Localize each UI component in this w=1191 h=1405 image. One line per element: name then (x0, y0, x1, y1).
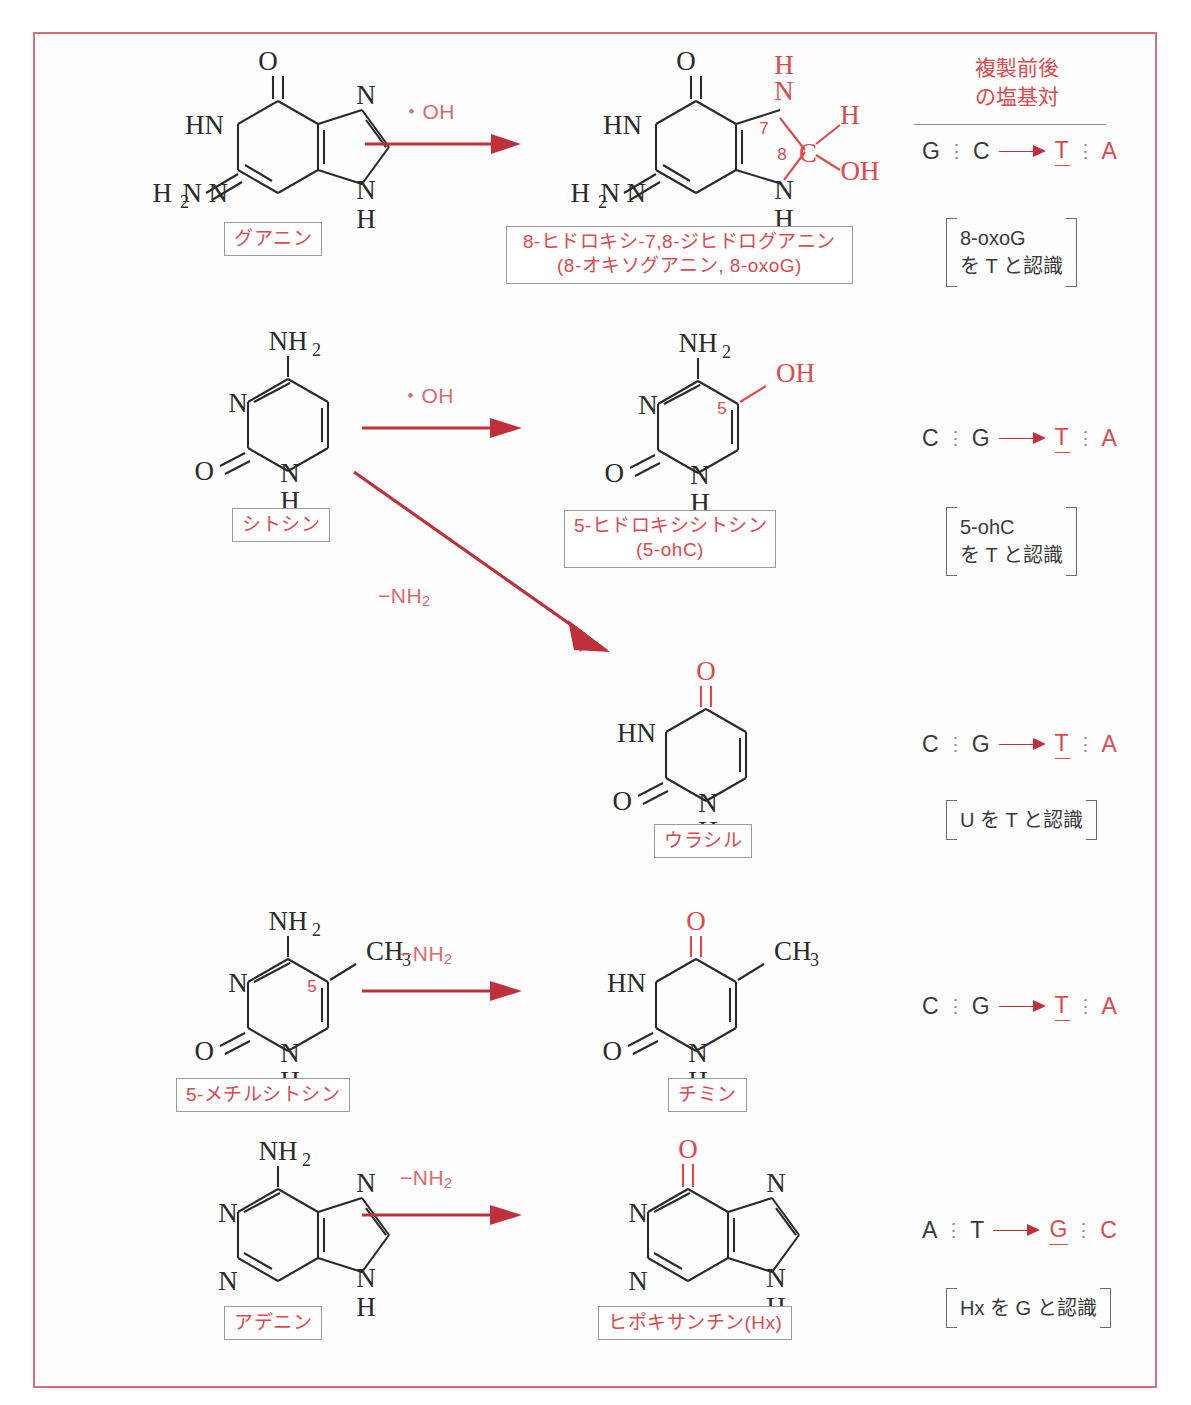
pair-2-arrow-icon (999, 432, 1047, 446)
svg-text:CH: CH (366, 936, 404, 966)
note-row-2: 5-ohC を T と認識 (946, 507, 1077, 576)
pair-3-from-a: C (922, 731, 940, 758)
structure-hypoxanthine: O N N N N H (560, 1140, 850, 1320)
pair-5-from-b: T (970, 1217, 985, 1244)
note-row-3: U を T と認識 (946, 800, 1097, 840)
pair-4-to-b: A (1102, 993, 1118, 1020)
svg-text:2: 2 (312, 920, 321, 940)
reaction-arrow-4 (362, 979, 527, 1003)
svg-text:N: N (228, 968, 248, 998)
svg-text:H: H (356, 1292, 376, 1322)
structure-uracil: O O HN N H (608, 660, 848, 840)
structure-5-hydroxycytosine: O NH 2 OH 5 N N H (600, 332, 850, 507)
svg-text:O: O (696, 656, 716, 686)
svg-text:C: C (799, 138, 817, 168)
pair-1-colon-right: ⋮ (1070, 140, 1102, 163)
pair-1-to-b: A (1102, 138, 1118, 165)
svg-text:5: 5 (717, 399, 726, 418)
reaction-arrow-1 (365, 132, 525, 156)
note-row-1-line2: を T と認識 (960, 252, 1063, 280)
right-column-header-line2: の塩基対 (975, 85, 1059, 108)
svg-text:OH: OH (776, 358, 815, 388)
right-column-divider (914, 124, 1106, 125)
svg-text:HN: HN (185, 110, 224, 140)
svg-text:NH: NH (679, 328, 718, 358)
caption-5ohc-line2: (5-ohC) (636, 539, 704, 560)
svg-text:N: N (688, 1038, 708, 1068)
svg-text:3: 3 (810, 950, 819, 970)
caption-hypoxanthine: ヒポキサンチン(Hx) (598, 1306, 792, 1340)
svg-text:N: N (218, 1198, 238, 1228)
caption-uracil: ウラシル (654, 824, 752, 858)
svg-text:N: N (628, 1198, 648, 1228)
svg-text:NH: NH (269, 326, 308, 356)
svg-text:N: N (601, 178, 621, 208)
pair-5-to-b: C (1100, 1217, 1118, 1244)
pair-4-colon-left: ⋮ (940, 995, 972, 1018)
svg-text:O: O (195, 1036, 215, 1066)
note-row-3-line1: U を T と認識 (960, 806, 1083, 834)
svg-text:NH: NH (269, 906, 308, 936)
svg-text:N: N (698, 788, 718, 818)
svg-text:H: H (571, 178, 591, 208)
pair-5-colon-right: ⋮ (1068, 1219, 1100, 1242)
svg-text:OH: OH (841, 156, 880, 186)
pair-3-colon-left: ⋮ (940, 733, 972, 756)
svg-text:O: O (195, 456, 215, 486)
note-row-1-line1: 8-oxoG (960, 224, 1063, 252)
pair-2-to-a: T (1055, 424, 1070, 453)
svg-text:8: 8 (777, 145, 786, 164)
arrow-label-deamination-3: −NH2 (400, 1166, 453, 1191)
svg-text:N: N (280, 1038, 300, 1068)
arrow-label-hydroxyl-radical-2: ・OH (400, 379, 454, 409)
svg-text:N: N (228, 388, 248, 418)
pair-2-colon-left: ⋮ (940, 427, 972, 450)
svg-text:N: N (766, 1263, 786, 1293)
pair-2-from-b: G (972, 425, 991, 452)
svg-text:O: O (603, 1036, 623, 1066)
pair-1-colon-left: ⋮ (941, 140, 973, 163)
svg-text:N: N (356, 1168, 376, 1198)
pair-5-colon-left: ⋮ (938, 1219, 970, 1242)
arrow-label-deamination-1: −NH2 (378, 584, 431, 609)
right-column-header-line1: 複製前後 (975, 56, 1059, 79)
svg-text:HN: HN (607, 968, 646, 998)
note-row-5-line1: Hx を G と認識 (960, 1294, 1097, 1322)
svg-text:7: 7 (759, 119, 768, 138)
pair-3-arrow-icon (999, 738, 1047, 752)
caption-adenine: アデニン (224, 1306, 322, 1340)
structure-thymine: O O CH 3 HN N H (598, 910, 848, 1090)
caption-8-oxoguanine-line2: (8-オキソグアニン, 8-oxoG) (557, 255, 802, 276)
svg-text:N: N (690, 460, 710, 490)
caption-5-methylcytosine: 5-メチルシトシン (176, 1078, 350, 1112)
base-pair-row-3: C ⋮ G T ⋮ A (922, 730, 1118, 759)
note-row-2-line2: を T と認識 (960, 541, 1063, 569)
pair-1-from-a: G (922, 138, 941, 165)
svg-text:N: N (774, 175, 794, 205)
right-column-header: 複製前後 の塩基対 (922, 53, 1112, 112)
structure-8-oxoguanine: O N H 7 8 C H OH N H HN N H 2 N (568, 52, 868, 232)
svg-text:N: N (628, 1266, 648, 1296)
svg-text:H: H (153, 178, 173, 208)
svg-text:HN: HN (603, 110, 642, 140)
caption-8-oxoguanine-line1: 8-ヒドロキシ-7,8-ジヒドログアニン (523, 231, 836, 252)
pair-1-from-b: C (973, 138, 991, 165)
svg-text:N: N (356, 1263, 376, 1293)
base-pair-row-1: G ⋮ C T ⋮ A (922, 137, 1118, 166)
pair-2-to-b: A (1102, 425, 1118, 452)
caption-5-hydroxycytosine: 5-ヒドロキシシトシン (5-ohC) (564, 510, 776, 568)
caption-5ohc-line1: 5-ヒドロキシシトシン (574, 515, 767, 536)
svg-text:N: N (183, 178, 203, 208)
caption-8-oxoguanine: 8-ヒドロキシ-7,8-ジヒドログアニン (8-オキソグアニン, 8-oxoG) (506, 226, 853, 284)
pair-3-from-b: G (972, 731, 991, 758)
caption-guanine: グアニン (224, 222, 322, 256)
svg-text:N: N (766, 1168, 786, 1198)
svg-text:2: 2 (722, 342, 731, 362)
svg-text:N: N (356, 175, 376, 205)
caption-thymine: チミン (668, 1078, 747, 1112)
svg-text:N: N (218, 1266, 238, 1296)
svg-text:N: N (774, 76, 794, 106)
note-row-2-line1: 5-ohC (960, 513, 1063, 541)
reaction-arrow-5 (362, 1203, 527, 1227)
svg-text:N: N (280, 458, 300, 488)
